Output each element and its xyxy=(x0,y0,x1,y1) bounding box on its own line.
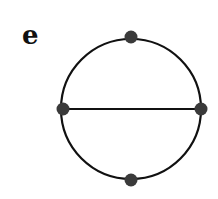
node-right xyxy=(195,103,208,116)
node-bottom xyxy=(125,174,138,187)
graph-diagram xyxy=(0,0,218,199)
node-top xyxy=(125,31,138,44)
node-left xyxy=(57,103,70,116)
